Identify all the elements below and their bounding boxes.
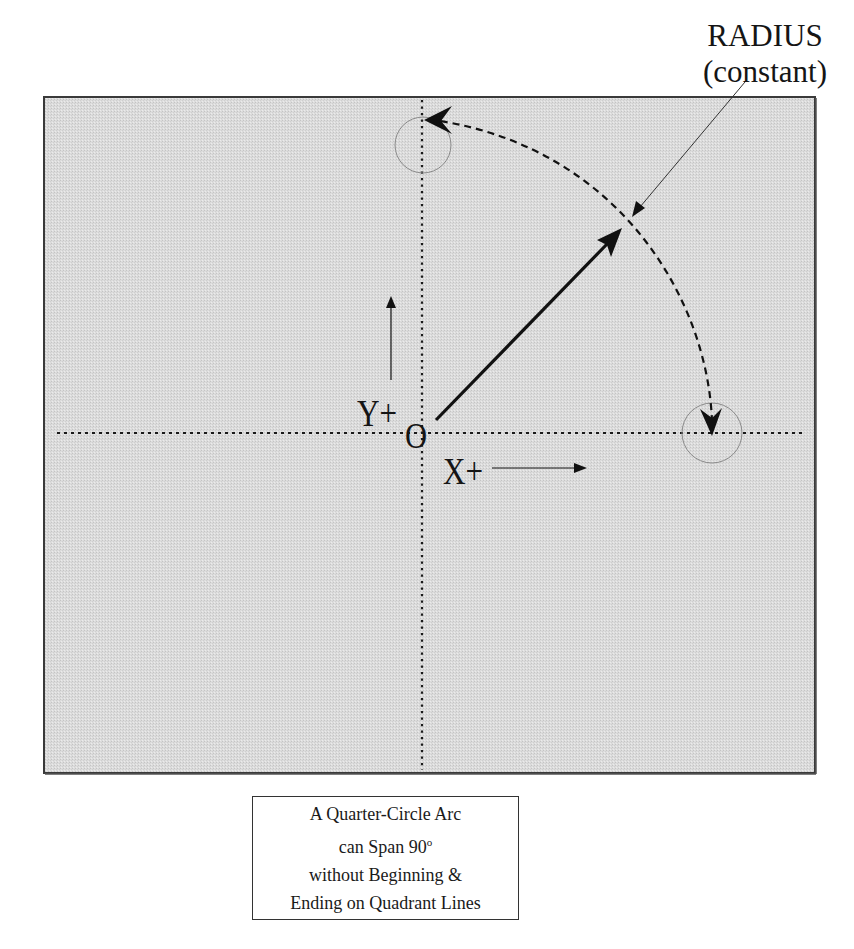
caption-line-3: without Beginning & — [309, 861, 462, 889]
x-axis-label: X+ — [443, 452, 483, 490]
radius-label-title: RADIUS — [680, 18, 850, 54]
y-axis-label: Y+ — [357, 394, 397, 432]
radius-label: RADIUS (constant) — [680, 18, 850, 90]
caption-line-2-text: can Span 90 — [339, 837, 427, 857]
origin-label: O — [405, 418, 427, 454]
diagram-stage: RADIUS (constant) Y+ X+ O A Quarter-Circ… — [0, 0, 854, 949]
caption-line-1: A Quarter-Circle Arc — [310, 800, 462, 828]
caption-box: A Quarter-Circle Arc can Span 90o withou… — [252, 796, 519, 920]
radius-label-subtitle: (constant) — [680, 54, 850, 90]
degree-superscript: o — [427, 836, 433, 848]
caption-line-4: Ending on Quadrant Lines — [290, 889, 480, 917]
caption-line-2: can Span 90o — [339, 828, 432, 861]
frame — [44, 97, 816, 774]
